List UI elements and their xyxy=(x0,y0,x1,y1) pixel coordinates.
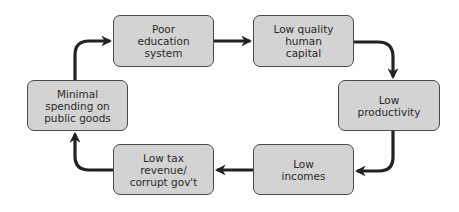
vicious-cycle-diagram: Poor education system Low quality human … xyxy=(0,0,459,212)
node-low-productivity: Low productivity xyxy=(338,80,440,131)
arrow-spending-to-education xyxy=(75,41,110,80)
node-label: Low incomes xyxy=(282,158,326,182)
node-label: Poor education system xyxy=(137,23,189,59)
node-minimal-spending: Minimal spending on public goods xyxy=(27,80,128,131)
arrow-tax-revenue-to-spending xyxy=(75,134,113,170)
node-label: Minimal spending on public goods xyxy=(44,88,111,124)
node-low-incomes: Low incomes xyxy=(253,144,354,195)
node-label: Low productivity xyxy=(358,94,421,118)
node-low-tax-revenue: Low tax revenue/ corrupt gov't xyxy=(113,144,214,195)
node-label: Low tax revenue/ corrupt gov't xyxy=(130,152,198,188)
node-poor-education: Poor education system xyxy=(113,15,214,67)
node-low-human-capital: Low quality human capital xyxy=(253,15,354,67)
node-label: Low quality human capital xyxy=(274,23,334,59)
arrow-human-capital-to-productivity xyxy=(354,42,393,77)
arrow-productivity-to-incomes xyxy=(357,131,393,171)
